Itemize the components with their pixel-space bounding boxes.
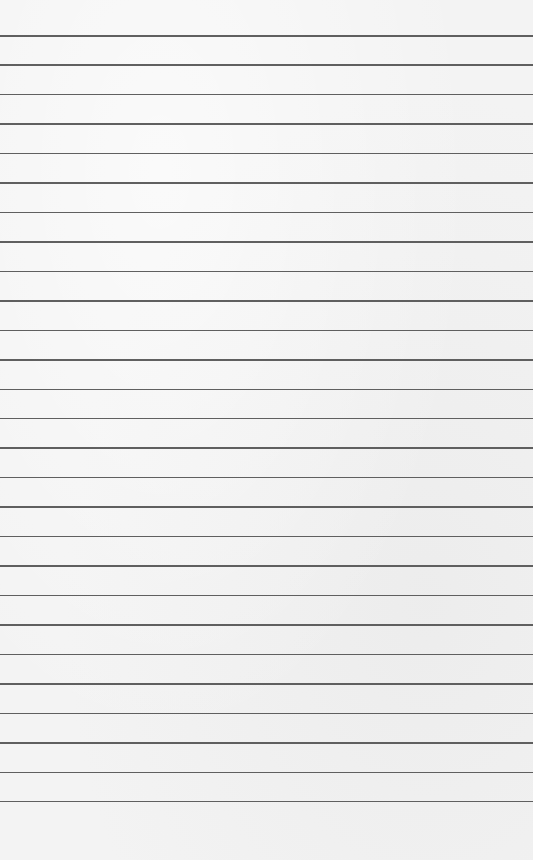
ruled-line: [0, 94, 533, 96]
ruled-line: [0, 595, 533, 597]
ruled-line: [0, 35, 533, 37]
ruled-line: [0, 153, 533, 155]
ruled-line: [0, 241, 533, 243]
ruled-line: [0, 624, 533, 626]
ruled-line: [0, 772, 533, 774]
ruled-line: [0, 300, 533, 302]
ruled-line: [0, 477, 533, 479]
ruled-line: [0, 742, 533, 744]
ruled-line: [0, 683, 533, 685]
ruled-line: [0, 359, 533, 361]
ruled-line: [0, 182, 533, 184]
lined-paper: [0, 0, 533, 860]
ruled-line: [0, 713, 533, 715]
ruled-line: [0, 123, 533, 125]
ruled-line: [0, 271, 533, 273]
ruled-line: [0, 506, 533, 508]
ruled-line: [0, 212, 533, 214]
ruled-line: [0, 447, 533, 449]
ruled-line: [0, 64, 533, 66]
ruled-line: [0, 565, 533, 567]
ruled-line: [0, 389, 533, 391]
ruled-line: [0, 536, 533, 538]
ruled-line: [0, 418, 533, 420]
ruled-line: [0, 330, 533, 332]
ruled-line: [0, 654, 533, 656]
ruled-line: [0, 801, 533, 803]
